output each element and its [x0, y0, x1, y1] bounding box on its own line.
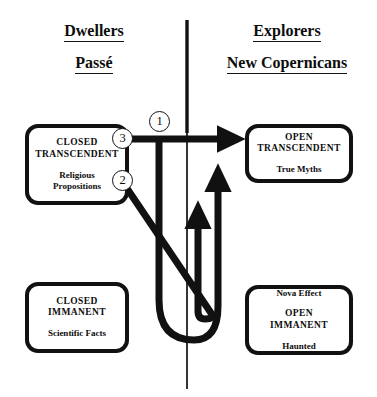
node-closed-transcendent-title: CLOSED TRANSCENDENT — [35, 137, 118, 161]
column-subheading-passe: Passé — [14, 54, 174, 74]
column-subheading-new-copernicans: New Copernicans — [200, 54, 374, 74]
node-open-transcendent-title: OPEN TRANSCENDENT — [257, 132, 340, 156]
node-open-immanent-title: OPEN IMMANENT — [270, 308, 328, 332]
node-closed-immanent: CLOSED IMMANENT Scientific Facts — [25, 282, 129, 353]
step-marker-2: 2 — [112, 170, 133, 191]
node-open-immanent-subtitle-below: Haunted — [282, 341, 316, 352]
column-subheading-passe-label: Passé — [75, 54, 112, 74]
step-marker-1: 1 — [149, 111, 170, 132]
node-open-transcendent: OPEN TRANSCENDENT True Myths — [245, 124, 353, 183]
step-marker-1-label: 1 — [156, 115, 162, 128]
step-marker-2-label: 2 — [119, 174, 125, 187]
column-heading-dwellers: Dwellers — [14, 22, 174, 42]
column-heading-explorers-label: Explorers — [253, 22, 320, 42]
node-open-immanent: Nova Effect OPEN IMMANENT Haunted — [245, 285, 353, 355]
node-open-immanent-subtitle-above: Nova Effect — [276, 288, 321, 299]
step-marker-3-label: 3 — [119, 132, 125, 145]
column-heading-dwellers-label: Dwellers — [64, 22, 124, 42]
node-open-transcendent-subtitle: True Myths — [276, 164, 321, 175]
step-marker-3: 3 — [112, 128, 133, 149]
node-closed-immanent-title: CLOSED IMMANENT — [48, 296, 106, 320]
column-subheading-new-copernicans-label: New Copernicans — [227, 54, 347, 74]
node-closed-transcendent-subtitle: Religious Propositions — [53, 170, 101, 193]
diagram-root: Dwellers Passé Explorers New Copernicans… — [0, 0, 377, 397]
node-closed-immanent-subtitle: Scientific Facts — [48, 328, 106, 339]
column-heading-explorers: Explorers — [204, 22, 370, 42]
arrow-diagonal-to-open-immanent-riser — [124, 184, 212, 319]
